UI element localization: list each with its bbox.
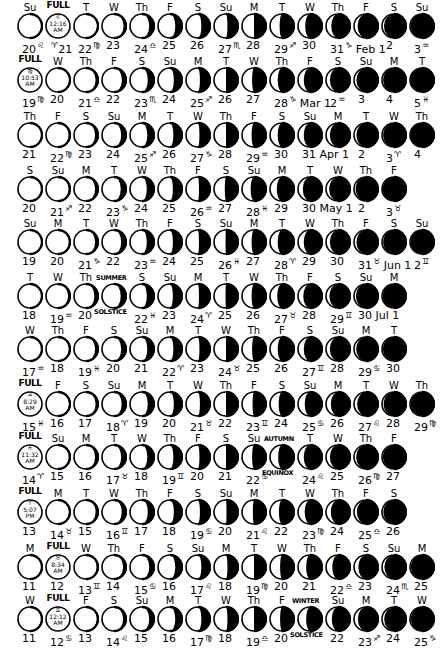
moon-phase-icon (381, 390, 407, 418)
lunar-cycle-row: W17♒Th18F19♓S20Su21M22♈T23W24♉Th25F26S27… (0, 325, 444, 379)
moon-day: M22 (72, 165, 100, 219)
event-label-bottom: SOLSTICE (94, 308, 127, 316)
moon-phase-icon (269, 553, 295, 581)
date-label: 23♑ (106, 203, 128, 219)
moon-phase-icon (17, 605, 43, 633)
moon-day: S27♊ (296, 325, 324, 379)
moon-phase-icon (73, 553, 99, 581)
date-label: 20 (162, 418, 176, 430)
date-label: 18 (134, 471, 148, 483)
moon-phase-icon (269, 282, 295, 310)
date-label: 28 (218, 149, 232, 161)
moon-day: Th18 (44, 325, 72, 379)
moon-phase-icon (101, 66, 127, 94)
moon-day: W30 (296, 2, 324, 56)
moon-day: M20 (44, 218, 72, 272)
moon-day: M (380, 272, 408, 326)
event-day: WINTERSOLSTICE (296, 595, 324, 649)
full-moon-label: FULL (14, 54, 46, 64)
full-moon-label: FULL (14, 431, 46, 441)
moon-day: Th19♎ (240, 595, 268, 649)
moon-phase-icon (269, 175, 295, 203)
moon-phase-icon (213, 335, 239, 363)
moon-day: F3♉ (380, 165, 408, 219)
moon-phase-icon (45, 390, 71, 418)
moon-phase-icon (409, 66, 435, 94)
date-label: 25 (162, 203, 176, 215)
moon-day: S2 (380, 2, 408, 56)
date-label: 20 (274, 581, 288, 593)
date-label: 27 (218, 203, 232, 215)
moon-day: M25♐ (184, 56, 212, 110)
moon-phase-icon (17, 175, 43, 203)
date-label: 25♑ (414, 633, 436, 649)
moon-phase-icon (185, 335, 211, 363)
moon-day: T22 (268, 488, 296, 542)
moon-phase-icon (213, 390, 239, 418)
moon-phase-icon (213, 175, 239, 203)
moon-day: T30 May 1 (296, 165, 324, 219)
date-label: 23♏ (134, 94, 156, 110)
date-label: 15 (50, 471, 64, 483)
moon-day: S22♓ (128, 272, 156, 326)
moon-day: S17 (72, 380, 100, 434)
moon-phase-icon (381, 121, 407, 149)
moon-phase-icon (381, 443, 407, 471)
event-label-top: SUMMER (96, 274, 127, 282)
date-label: 21 (134, 363, 148, 375)
date-label: 21♌ (246, 526, 268, 542)
moon-phase-icon (297, 335, 323, 363)
moon-phase-icon (185, 443, 211, 471)
moon-day: M23♐ (352, 595, 380, 649)
moon-day: W20 (44, 56, 72, 110)
date-label: 19 (134, 418, 148, 430)
moon-phase-icon (353, 498, 379, 526)
moon-day: W21♉ (184, 380, 212, 434)
moon-phase-icon (325, 390, 351, 418)
moon-day: W25♑ (408, 595, 436, 649)
moon-day: W3♈ (380, 111, 408, 165)
date-label: 18♈ (106, 418, 128, 434)
date-label: 14♌ (106, 633, 128, 649)
moon-phase-icon (297, 175, 323, 203)
moon-phase-icon (213, 66, 239, 94)
moon-phase-icon (101, 553, 127, 581)
date-label: 4 (386, 94, 393, 106)
date-label: 17♉ (106, 471, 128, 487)
moon-phase-icon (185, 66, 211, 94)
moon-phase-icon (213, 121, 239, 149)
moon-phase-icon (353, 443, 379, 471)
moon-phase-icon (297, 12, 323, 40)
moon-day: M14♉ (44, 488, 72, 542)
moon-day: S19♋ (184, 488, 212, 542)
lunar-cycle-row: FULL♓11:32AM14♈Su15M16T17♉W18Th19♊F20S21… (0, 433, 444, 487)
event-label-top: AUTUMN (264, 435, 294, 443)
date-label: 22♍ (78, 40, 100, 56)
moon-day: M11 (16, 543, 44, 597)
date-label: 23♍ (302, 526, 324, 542)
moon-phase-icon (381, 498, 407, 526)
moon-day: M24♈ (184, 272, 212, 326)
date-label: 27♑ (190, 149, 212, 165)
moon-phase-icon (241, 553, 267, 581)
moon-phase-icon (101, 335, 127, 363)
date-label: 24 (274, 418, 288, 430)
moon-phase-icon (353, 175, 379, 203)
moon-day: Su24♏ (380, 543, 408, 597)
moon-day: T23♑ (100, 165, 128, 219)
moon-day: W29 (296, 218, 324, 272)
date-label: 22 (106, 94, 120, 106)
date-label: 2 (358, 203, 365, 215)
date-label: 2 (386, 40, 393, 52)
date-label: 18 (218, 633, 232, 645)
date-label: 28 (386, 418, 400, 430)
moon-day: W23 (100, 2, 128, 56)
date-label: 25 (330, 471, 344, 483)
moon-phase-icon (17, 282, 43, 310)
moon-phase-icon (101, 228, 127, 256)
moon-day: T26 (156, 111, 184, 165)
moon-day: S20 (100, 325, 128, 379)
moon-phase-icon (129, 553, 155, 581)
moon-day: F (296, 56, 324, 110)
lunar-cycle-row: FULL♍10:53AM19♍W20Th21♎F22S23♏Su24M25♐T2… (0, 56, 444, 110)
